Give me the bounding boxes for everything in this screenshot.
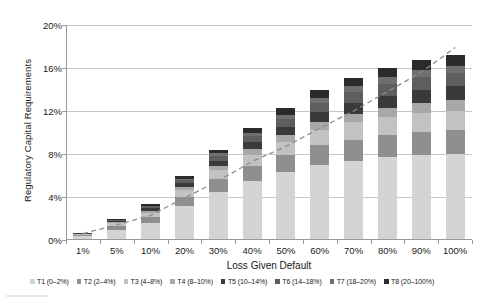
x-axis-tick-mark: [404, 240, 405, 244]
legend-item[interactable]: T8 (20–100%): [384, 278, 434, 285]
scan-artifact: [6, 295, 48, 297]
y-axis-tick-labels: 0%4%8%12%16%20%: [18, 25, 62, 240]
legend-item[interactable]: T1 (0–2%): [30, 278, 69, 285]
x-axis-tick-label: 1%: [76, 245, 90, 256]
trend-line: [66, 25, 472, 240]
legend-swatch-icon: [170, 279, 175, 284]
legend-label: T1 (0–2%): [37, 278, 69, 285]
x-axis-tick-label: 5%: [110, 245, 124, 256]
x-axis-tick-label: 10%: [141, 245, 160, 256]
legend-label: T2 (2–4%): [84, 278, 116, 285]
x-axis-tick-label: 20%: [175, 245, 194, 256]
x-axis-tick-label: 30%: [209, 245, 228, 256]
x-axis-tick-mark: [66, 240, 67, 244]
legend-swatch-icon: [77, 279, 82, 284]
page-bottom-edge: [0, 293, 489, 300]
x-axis-tick-label: 60%: [310, 245, 329, 256]
legend-swatch-icon: [330, 279, 335, 284]
x-axis-tick-label: 80%: [378, 245, 397, 256]
legend-label: T4 (8–10%): [177, 278, 213, 285]
y-axis-tick-label: 8%: [22, 149, 62, 160]
x-axis-tick-mark: [168, 240, 169, 244]
legend-swatch-icon: [124, 279, 129, 284]
y-axis-tick-label: 4%: [22, 192, 62, 203]
x-axis-tick-label: 70%: [344, 245, 363, 256]
legend-item[interactable]: T4 (8–10%): [170, 278, 213, 285]
chart-container: Regulatory Capital Requirements 0%4%8%12…: [0, 0, 489, 300]
y-axis-tick-label: 20%: [22, 20, 62, 31]
x-axis-tick-label: 40%: [243, 245, 262, 256]
legend-swatch-icon: [275, 279, 280, 284]
plot-area: [66, 25, 472, 240]
x-axis-tick-mark: [303, 240, 304, 244]
legend-item[interactable]: T7 (18–20%): [330, 278, 376, 285]
legend-label: T8 (20–100%): [391, 278, 434, 285]
x-axis-tick-label: 100%: [443, 245, 467, 256]
x-axis-title: Loss Given Default: [66, 260, 472, 271]
legend-label: T3 (4–8%): [131, 278, 163, 285]
legend-label: T5 (10–14%): [228, 278, 267, 285]
y-axis-tick-label: 16%: [22, 63, 62, 74]
legend-item[interactable]: T5 (10–14%): [221, 278, 267, 285]
x-axis-tick-labels: 1%5%10%20%30%40%50%60%70%80%90%100%: [66, 245, 472, 259]
y-axis-tick-label: 0%: [22, 235, 62, 246]
legend-item[interactable]: T3 (4–8%): [124, 278, 163, 285]
x-axis-tick-mark: [472, 240, 473, 244]
x-axis-tick-mark: [438, 240, 439, 244]
legend-label: T6 (14–18%): [282, 278, 321, 285]
x-axis-tick-mark: [371, 240, 372, 244]
y-axis-tick-label: 12%: [22, 106, 62, 117]
legend-item[interactable]: T2 (2–4%): [77, 278, 116, 285]
x-axis-tick-mark: [100, 240, 101, 244]
legend-label: T7 (18–20%): [337, 278, 376, 285]
legend-item[interactable]: T6 (14–18%): [275, 278, 321, 285]
x-axis-tick-label: 50%: [276, 245, 295, 256]
trend-line-path: [83, 48, 455, 234]
x-axis-tick-mark: [269, 240, 270, 244]
legend-swatch-icon: [30, 279, 35, 284]
x-axis-tick-mark: [134, 240, 135, 244]
legend-swatch-icon: [221, 279, 226, 284]
x-axis-tick-label: 90%: [412, 245, 431, 256]
x-axis-tick-mark: [201, 240, 202, 244]
x-axis-tick-mark: [235, 240, 236, 244]
legend-swatch-icon: [384, 279, 389, 284]
chart-legend: T1 (0–2%)T2 (2–4%)T3 (4–8%)T4 (8–10%)T5 …: [30, 278, 470, 285]
x-axis-tick-mark: [337, 240, 338, 244]
